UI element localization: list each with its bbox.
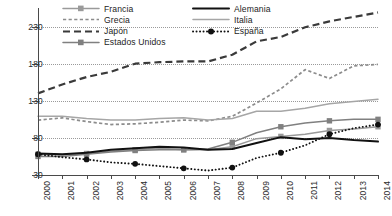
data-point-marker bbox=[278, 150, 284, 156]
legend-label: Grecia bbox=[104, 15, 130, 25]
x-tick-2009 bbox=[257, 175, 258, 179]
x-axis-label: 2014 bbox=[382, 181, 392, 200]
x-axis-label: 2013 bbox=[358, 181, 368, 200]
x-axis-label: 2007 bbox=[212, 181, 222, 200]
series-line bbox=[38, 64, 378, 124]
data-point-marker bbox=[132, 161, 138, 167]
x-tick-2014 bbox=[378, 175, 379, 179]
series-line bbox=[38, 137, 378, 154]
legend-item-japón[interactable]: Japón bbox=[62, 26, 128, 37]
data-point-marker bbox=[375, 122, 381, 128]
legend-item-españa[interactable]: España bbox=[192, 26, 264, 37]
legend-swatch-icon bbox=[62, 3, 100, 14]
x-axis-label: 2004 bbox=[139, 181, 149, 200]
x-tick-2001 bbox=[62, 175, 63, 179]
x-axis-label: 2010 bbox=[285, 181, 295, 200]
series-grecia bbox=[38, 64, 378, 124]
legend-item-estados-unidos[interactable]: Estados Unidos bbox=[62, 37, 166, 48]
x-tick-2012 bbox=[329, 175, 330, 179]
x-tick-2000 bbox=[38, 175, 39, 179]
legend-swatch-icon bbox=[192, 26, 230, 37]
legend-item-italia[interactable]: Italia bbox=[192, 14, 253, 25]
x-tick-2008 bbox=[232, 175, 233, 179]
x-axis-label: 2000 bbox=[42, 181, 52, 200]
x-tick-2004 bbox=[135, 175, 136, 179]
x-axis-label: 2002 bbox=[91, 181, 101, 200]
legend-swatch-icon bbox=[62, 26, 100, 37]
data-point-marker bbox=[84, 157, 90, 163]
x-axis-label: 2009 bbox=[261, 181, 271, 200]
series-line bbox=[38, 99, 378, 120]
data-point-marker bbox=[229, 165, 235, 171]
data-point-marker bbox=[278, 124, 283, 129]
legend-swatch-icon bbox=[62, 14, 100, 25]
legend-label: Italia bbox=[234, 15, 253, 25]
x-axis-label: 2008 bbox=[236, 181, 246, 200]
x-tick-2011 bbox=[305, 175, 306, 179]
data-point-marker bbox=[375, 117, 380, 122]
legend-label: Japón bbox=[104, 26, 128, 36]
data-point-marker bbox=[327, 118, 332, 123]
x-axis-label: 2011 bbox=[309, 181, 319, 200]
y-axis-label: 80 bbox=[33, 133, 43, 143]
y-axis-label: 230 bbox=[28, 22, 43, 32]
data-point-marker bbox=[181, 165, 187, 171]
x-axis-label: 2003 bbox=[115, 181, 125, 200]
legend-swatch-icon bbox=[192, 14, 230, 25]
x-axis-label: 2001 bbox=[66, 181, 76, 200]
legend-label: Francia bbox=[104, 4, 133, 14]
legend-item-alemania[interactable]: Alemania bbox=[192, 3, 271, 14]
data-point-marker bbox=[230, 140, 235, 145]
legend-swatch-icon bbox=[192, 3, 230, 14]
series-italia bbox=[38, 99, 378, 120]
chart-legend: FranciaAlemaniaGreciaItaliaJapónEspañaEs… bbox=[62, 2, 312, 48]
x-axis-label: 2012 bbox=[333, 181, 343, 200]
legend-item-grecia[interactable]: Grecia bbox=[62, 14, 130, 25]
legend-label: Estados Unidos bbox=[104, 37, 166, 47]
legend-swatch-icon bbox=[62, 37, 100, 48]
x-tick-2013 bbox=[354, 175, 355, 179]
x-axis-label: 2006 bbox=[188, 181, 198, 200]
x-axis-label: 2005 bbox=[163, 181, 173, 200]
legend-label: Alemania bbox=[234, 4, 271, 14]
legend-label: España bbox=[234, 26, 264, 36]
x-tick-2002 bbox=[87, 175, 88, 179]
x-tick-2010 bbox=[281, 175, 282, 179]
data-point-marker bbox=[327, 131, 333, 137]
series-alemania bbox=[38, 137, 378, 154]
legend-item-francia[interactable]: Francia bbox=[62, 3, 133, 14]
y-axis-label: 180 bbox=[28, 59, 43, 69]
x-tick-2007 bbox=[208, 175, 209, 179]
x-tick-2006 bbox=[184, 175, 185, 179]
y-axis-label: 130 bbox=[28, 96, 43, 106]
x-tick-2003 bbox=[111, 175, 112, 179]
y-axis-line bbox=[38, 8, 39, 175]
x-tick-2005 bbox=[159, 175, 160, 179]
